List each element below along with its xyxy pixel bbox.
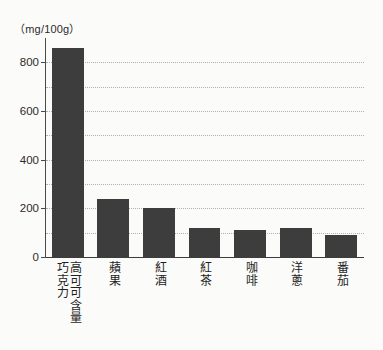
x-axis-category-label: 番茄 <box>318 261 364 286</box>
category-label-column: 蘋果 <box>107 261 119 286</box>
x-axis-category-label: 咖啡 <box>227 261 273 286</box>
y-axis-line <box>45 38 46 258</box>
y-axis-tick-label: 0 <box>33 251 39 263</box>
x-axis-category-label: 蘋果 <box>91 261 137 286</box>
category-label-column: 番茄 <box>335 261 347 286</box>
bar[interactable] <box>325 235 357 257</box>
x-axis-line <box>45 257 364 258</box>
bar[interactable] <box>234 230 266 257</box>
y-axis-tick <box>41 160 46 161</box>
y-axis-tick-label: 200 <box>20 202 39 214</box>
gridline <box>46 184 364 185</box>
y-axis-tick-label: 600 <box>20 105 39 117</box>
category-label-column: 巧克力 <box>55 261 67 324</box>
bar[interactable] <box>143 208 175 257</box>
x-axis-category-label: 洋蔥 <box>273 261 319 286</box>
gridline <box>46 135 364 136</box>
gridline <box>46 87 364 88</box>
category-label-column: 高可可含量 <box>68 261 80 324</box>
bar[interactable] <box>52 48 84 257</box>
gridline <box>46 62 364 63</box>
category-label-column: 洋蔥 <box>290 261 302 286</box>
y-axis-tick <box>41 257 46 258</box>
category-label-column: 紅茶 <box>198 261 210 286</box>
plot-area: 0200400600800 <box>45 38 364 258</box>
y-axis-tick-label: 400 <box>20 154 39 166</box>
y-axis-tick <box>41 62 46 63</box>
gridline <box>46 208 364 209</box>
x-axis-category-label: 紅酒 <box>136 261 182 286</box>
bar[interactable] <box>97 199 129 257</box>
gridline <box>46 111 364 112</box>
x-axis-category-label: 紅茶 <box>182 261 228 286</box>
x-axis-category-label: 高可可含量巧克力 <box>45 261 91 324</box>
chart-figure: （mg/100g） 0200400600800 高可可含量巧克力蘋果紅酒紅茶咖啡… <box>0 0 383 350</box>
bar[interactable] <box>189 228 221 257</box>
y-axis-tick <box>41 208 46 209</box>
bar[interactable] <box>280 228 312 257</box>
y-axis-tick-label: 800 <box>20 56 39 68</box>
category-label-column: 紅酒 <box>153 261 165 286</box>
y-axis-unit-label: （mg/100g） <box>14 20 81 36</box>
gridline <box>46 160 364 161</box>
category-label-column: 咖啡 <box>244 261 256 286</box>
y-axis-tick <box>41 111 46 112</box>
